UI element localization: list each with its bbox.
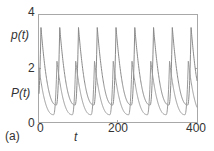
series-label-p: p(t)	[11, 28, 29, 42]
y-tick-2: 2	[28, 61, 35, 75]
x-axis-label: t	[74, 130, 77, 144]
x-tick-200: 200	[108, 121, 128, 135]
series-group	[39, 28, 197, 115]
series-label-P: P(t)	[11, 86, 30, 100]
series-line-P-capital	[39, 61, 197, 114]
plot-frame	[39, 15, 198, 123]
x-tick-0: 0	[37, 121, 44, 135]
y-tick-0: 0	[28, 116, 35, 130]
panel-label: (a)	[5, 129, 20, 143]
x-tick-400: 400	[186, 121, 206, 135]
y-tick-4: 4	[28, 5, 35, 19]
